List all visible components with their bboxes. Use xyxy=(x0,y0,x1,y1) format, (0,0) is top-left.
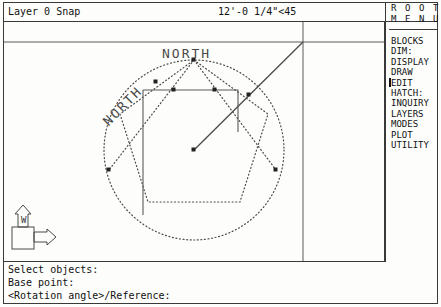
grip-point xyxy=(172,88,176,92)
grip-point xyxy=(154,80,158,84)
menu-item-layers[interactable]: LAYERS xyxy=(389,109,439,119)
menu-item-dim[interactable]: DIM: xyxy=(389,46,439,56)
menu-item-edit[interactable]: EDIT xyxy=(389,78,439,88)
command-line-area[interactable]: Select objects: Base point: <Rotation an… xyxy=(4,263,437,304)
side-menu-items: BLOCKS DIM: DISPLAY DRAW EDIT HATCH: INQ… xyxy=(389,36,439,150)
grip-point xyxy=(274,168,278,172)
menu-item-plot[interactable]: PLOT xyxy=(389,130,439,140)
menu-item-utility[interactable]: UTILITY xyxy=(389,140,439,150)
menu-item-modes[interactable]: MODES xyxy=(389,119,439,129)
grip-point xyxy=(192,148,196,152)
drawing-viewport[interactable]: W NORTH NORTH xyxy=(4,22,385,262)
grip-point xyxy=(213,88,217,92)
grip-point xyxy=(107,168,111,172)
menu-item-blocks[interactable]: BLOCKS xyxy=(389,36,439,46)
polygon-entity xyxy=(120,60,268,202)
menu-item-inquiry[interactable]: INQUIRY xyxy=(389,98,439,108)
ucs-world-label: W xyxy=(21,215,27,225)
grip-point xyxy=(247,93,251,97)
autocad-drawing-editor: Layer 0 Snap 12'-0 1/4"<45 R O O T M E N… xyxy=(0,0,441,307)
construction-line-right xyxy=(194,60,276,170)
status-layer-text[interactable]: Layer 0 Snap xyxy=(8,6,80,18)
command-line-base-point: Base point: xyxy=(4,276,437,289)
menu-item-hatch[interactable]: HATCH: xyxy=(389,88,439,98)
command-line-select-objects: Select objects: xyxy=(4,263,437,276)
menu-item-display[interactable]: DISPLAY xyxy=(389,57,439,67)
ucs-icon: W xyxy=(12,205,56,249)
rectangle-entity xyxy=(143,90,238,132)
side-menu-title-line-1: R O O T xyxy=(389,3,437,14)
side-menu-title[interactable]: R O O T M E N U xyxy=(389,3,437,30)
side-menu-title-line-2: M E N U xyxy=(389,14,437,25)
command-line-rotation-angle: <Rotation angle>/Reference: xyxy=(4,289,437,302)
status-bar: Layer 0 Snap 12'-0 1/4"<45 xyxy=(4,3,437,22)
status-coordinates[interactable]: 12'-0 1/4"<45 xyxy=(218,6,296,18)
menu-item-draw[interactable]: DRAW xyxy=(389,67,439,77)
drawing-label-north-horizontal[interactable]: NORTH xyxy=(162,46,211,61)
